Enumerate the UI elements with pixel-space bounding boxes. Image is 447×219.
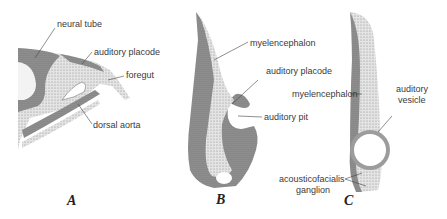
panel-letter-a: A <box>67 193 76 209</box>
label-neural-tube: neural tube <box>57 19 102 29</box>
panel-letter-b: B <box>216 192 225 208</box>
panel-a-drawing <box>18 48 130 150</box>
label-auditory-vesicle-line2: vesicle <box>398 95 426 105</box>
panel-letter-c: C <box>344 193 353 209</box>
label-acousticofacialis-line1: acousticofacialis <box>279 174 345 184</box>
label-myelencephalon-b: myelencephalon <box>250 38 316 48</box>
label-dorsal-aorta: dorsal aorta <box>93 120 141 130</box>
label-auditory-vesicle-line1: auditory <box>396 84 428 94</box>
embryo-auditory-figure: neural tube auditory placode foregut dor… <box>0 0 447 219</box>
figure-illustration <box>0 0 447 219</box>
label-auditory-pit: auditory pit <box>264 112 308 122</box>
label-foregut: foregut <box>126 70 154 80</box>
label-myelencephalon-c: myelencephalon <box>292 89 358 99</box>
panel-b-drawing <box>188 12 258 188</box>
label-auditory-placode-a: auditory placode <box>94 47 160 57</box>
label-auditory-placode-b: auditory placode <box>266 66 332 76</box>
panel-c-drawing <box>350 12 390 192</box>
label-acousticofacialis-line2: ganglion <box>296 185 330 195</box>
